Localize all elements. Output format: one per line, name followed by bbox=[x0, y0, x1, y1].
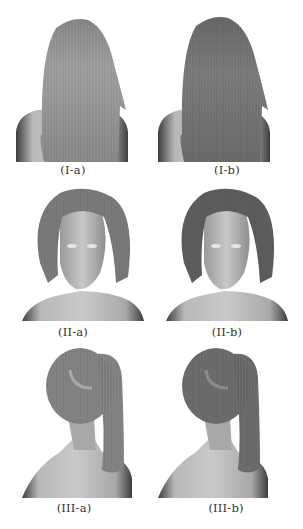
figure-panel-II-b bbox=[164, 183, 290, 323]
back-ponytail-render bbox=[156, 346, 271, 498]
caption-II-b: (II-b) bbox=[167, 325, 287, 339]
figure-panel-III-a bbox=[20, 348, 135, 498]
figure-panel-II-a bbox=[20, 183, 146, 323]
caption-III-a: (III-a) bbox=[14, 501, 134, 515]
caption-I-a: (I-a) bbox=[13, 163, 133, 177]
face-short-hair-render bbox=[20, 183, 146, 323]
figure-panel-III-b bbox=[156, 346, 271, 498]
caption-III-b: (III-b) bbox=[166, 501, 286, 515]
back-long-hair-render bbox=[14, 14, 130, 162]
caption-I-b: (I-b) bbox=[167, 163, 287, 177]
figure-panel-I-b bbox=[156, 12, 272, 162]
back-long-hair-render bbox=[156, 12, 272, 162]
caption-II-a: (II-a) bbox=[13, 325, 133, 339]
face-short-hair-render bbox=[164, 183, 290, 323]
figure-panel-I-a bbox=[14, 14, 130, 162]
back-ponytail-render bbox=[20, 348, 135, 498]
